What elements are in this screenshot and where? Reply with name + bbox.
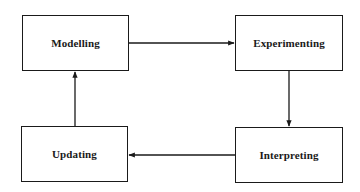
node-experimenting: Experimenting [235,15,343,71]
node-interpreting: Interpreting [235,127,343,183]
node-label-updating: Updating [52,148,97,160]
node-label-modelling: Modelling [51,37,100,49]
node-updating: Updating [21,126,128,182]
node-label-experimenting: Experimenting [253,37,325,49]
node-label-interpreting: Interpreting [259,149,318,161]
node-modelling: Modelling [22,15,129,71]
